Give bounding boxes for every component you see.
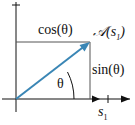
point-label-close: ) <box>120 24 125 39</box>
cos-label: cos(θ) <box>38 23 73 37</box>
s-label-sub: 1 <box>103 113 107 122</box>
unit-vector-diagram: cos(θ) sin(θ) θ 𝒜(s1) s1 <box>0 0 135 125</box>
vector-arrowhead <box>80 42 91 52</box>
theta-label: θ <box>57 77 64 91</box>
axis-arrowhead-2 <box>121 96 130 103</box>
theta-arc <box>68 72 75 99</box>
sin-label: sin(θ) <box>92 63 124 77</box>
point-label-main: 𝒜(s <box>93 24 116 39</box>
s1-axis-label: s1 <box>98 105 107 125</box>
point-label: 𝒜(s1) <box>93 25 125 45</box>
axis-arrowhead-1 <box>92 96 100 103</box>
